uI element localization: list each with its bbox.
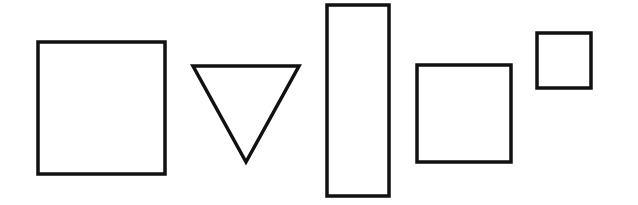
small-square — [537, 33, 591, 88]
shapes-canvas — [0, 0, 638, 205]
large-square — [38, 42, 165, 174]
tall-rectangle — [327, 5, 389, 196]
medium-square — [417, 65, 511, 162]
downward-triangle — [193, 66, 299, 162]
shape-sequence-diagram — [0, 0, 638, 205]
